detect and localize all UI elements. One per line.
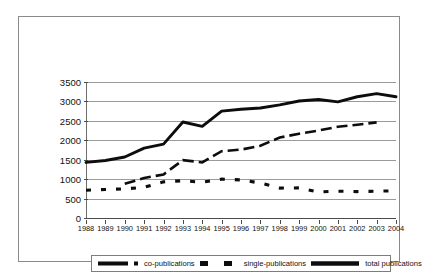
x-axis-labels: 1988198919901991199219931994199519961997… — [86, 220, 396, 242]
dashed-line-key — [97, 258, 139, 269]
x-tick-label: 1993 — [175, 224, 191, 233]
y-tick-label: 3000 — [60, 96, 81, 107]
x-tick-label: 1995 — [213, 224, 229, 233]
legend-label: single-publications — [244, 259, 306, 268]
x-tick-label: 2001 — [330, 224, 346, 233]
x-tick-label: 1988 — [78, 224, 94, 233]
x-tick-label: 1989 — [97, 224, 113, 233]
x-tick-label: 1991 — [136, 224, 152, 233]
legend-label: co-publications — [144, 259, 195, 268]
y-tick — [84, 218, 88, 219]
legend-item-co-publications: co-publications — [97, 258, 195, 269]
x-tick-label: 2004 — [388, 224, 404, 233]
y-tick-label: 0 — [76, 213, 81, 224]
x-tick-label: 1997 — [252, 224, 268, 233]
y-tick-label: 2000 — [60, 135, 81, 146]
x-tick-label: 2002 — [349, 224, 365, 233]
gridline — [87, 218, 396, 219]
dotted-square-key — [199, 258, 239, 269]
y-tick-label: 1500 — [60, 154, 81, 165]
y-tick-label: 3500 — [60, 77, 81, 88]
legend-label: total publications — [365, 259, 422, 268]
x-tick-label: 2000 — [310, 224, 326, 233]
x-tick-label: 1992 — [155, 224, 171, 233]
x-tick-label: 1998 — [272, 224, 288, 233]
legend-item-total-publications: total publications — [310, 258, 422, 269]
x-tick-label: 1999 — [291, 224, 307, 233]
figure-frame: 0500100015002000250030003500 19881989199… — [18, 16, 400, 262]
y-tick-label: 500 — [65, 193, 81, 204]
x-tick-label: 2003 — [368, 224, 384, 233]
x-tick-label: 1994 — [194, 224, 210, 233]
series-co-publications — [125, 122, 377, 183]
chart-figure: 0500100015002000250030003500 19881989199… — [0, 0, 429, 276]
series-layer — [86, 82, 396, 218]
chart-legend: co-publications single-publications tota… — [91, 255, 391, 272]
solid-line-key — [310, 258, 360, 269]
x-tick-label: 1990 — [117, 224, 133, 233]
y-tick-label: 1000 — [60, 174, 81, 185]
legend-item-single-publications: single-publications — [199, 258, 306, 269]
y-tick-label: 2500 — [60, 115, 81, 126]
series-total-publications — [86, 94, 396, 163]
y-axis-labels: 0500100015002000250030003500 — [19, 82, 81, 218]
x-tick-label: 1996 — [233, 224, 249, 233]
